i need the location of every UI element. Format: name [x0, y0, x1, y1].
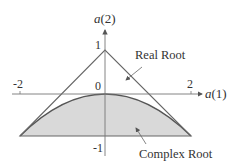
y-tick-label-1: 1 [95, 38, 101, 52]
complex-root-label: Complex Root [139, 147, 213, 161]
x-tick-label-2: 2 [187, 77, 193, 91]
real-root-label: Real Root [135, 48, 186, 62]
y-tick-label-0: 0 [95, 79, 101, 93]
y-axis-label: a(2) [94, 11, 116, 26]
y-tick-label-neg1: -1 [93, 141, 103, 155]
stability-triangle-diagram: a(2) a(1) -2 2 1 0 -1 Real Root Complex … [0, 0, 238, 166]
x-tick-label-neg2: -2 [13, 77, 23, 91]
x-axis-label: a(1) [205, 86, 227, 101]
